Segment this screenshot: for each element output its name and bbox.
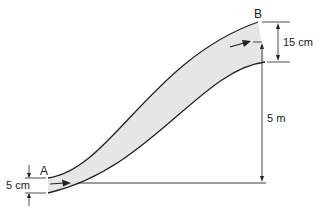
diameter-a-label: 5 cm — [6, 180, 30, 191]
point-b-label: B — [254, 8, 262, 20]
pipe-diagram — [0, 0, 321, 216]
pipe-body — [48, 22, 265, 193]
elevation-label: 5 m — [267, 113, 285, 124]
point-a-label: A — [40, 165, 48, 177]
diameter-b-label: 15 cm — [283, 37, 313, 48]
